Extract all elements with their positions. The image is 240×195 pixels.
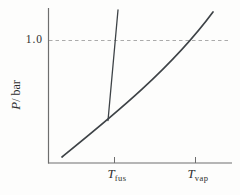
xtick-label-tvap: Tvap xyxy=(187,167,208,180)
ytick-label-1.0: 1.0 xyxy=(18,34,43,46)
phase-diagram-figure: 1.0 P/ bar Tfus Tvap xyxy=(0,0,240,195)
y-axis-label-unit: / bar xyxy=(9,80,23,102)
xtick-label-tfus: Tfus xyxy=(107,167,126,180)
vaporization-curve xyxy=(62,12,213,157)
y-axis-label: P/ bar xyxy=(9,80,22,110)
fusion-curve xyxy=(108,10,118,121)
plot-canvas xyxy=(0,0,240,195)
xtick-tfus-subscript: fus xyxy=(115,173,127,183)
xtick-tvap-subscript: vap xyxy=(195,173,209,183)
y-axis-label-variable: P xyxy=(8,102,23,110)
